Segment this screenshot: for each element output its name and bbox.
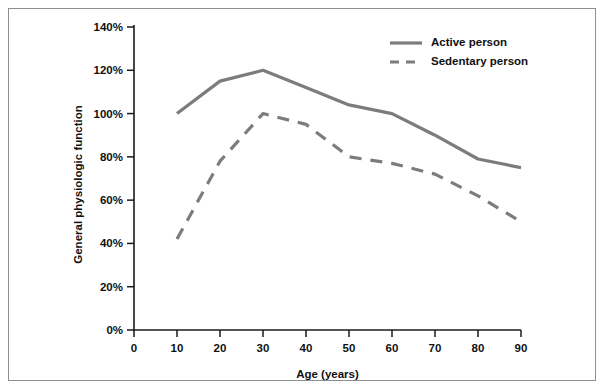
x-axis-tick-label: 50 [343,342,356,354]
y-axis-title: General physiologic function [72,105,84,263]
x-axis-tick-label: 10 [171,342,184,354]
legend-label-active-person: Active person [431,36,507,48]
y-axis-tick-label: 80% [100,151,123,163]
x-axis-tick-label: 70 [429,342,442,354]
figure-container: 0%20%40%60%80%100%120%140%01020304050607… [0,0,604,389]
x-axis-tick-label: 30 [257,342,270,354]
series-line-active-person [177,70,521,167]
x-axis-tick-label: 60 [386,342,399,354]
x-axis-tick-label: 80 [472,342,485,354]
y-axis-tick-label: 20% [100,281,123,293]
y-axis-tick-label: 40% [100,237,123,249]
y-axis-tick-label: 120% [94,64,123,76]
legend-label-sedentary-person: Sedentary person [431,55,528,67]
y-axis-tick-label: 60% [100,194,123,206]
line-chart: 0%20%40%60%80%100%120%140%01020304050607… [0,0,604,389]
x-axis-tick-label: 0 [131,342,137,354]
y-axis-tick-label: 100% [94,108,123,120]
x-axis-tick-label: 40 [300,342,313,354]
y-axis-tick-label: 140% [94,21,123,33]
series-line-sedentary-person [177,114,521,240]
x-axis-tick-label: 20 [214,342,227,354]
x-axis-tick-label: 90 [515,342,528,354]
x-axis-title: Age (years) [296,368,359,380]
y-axis-tick-label: 0% [106,324,123,336]
